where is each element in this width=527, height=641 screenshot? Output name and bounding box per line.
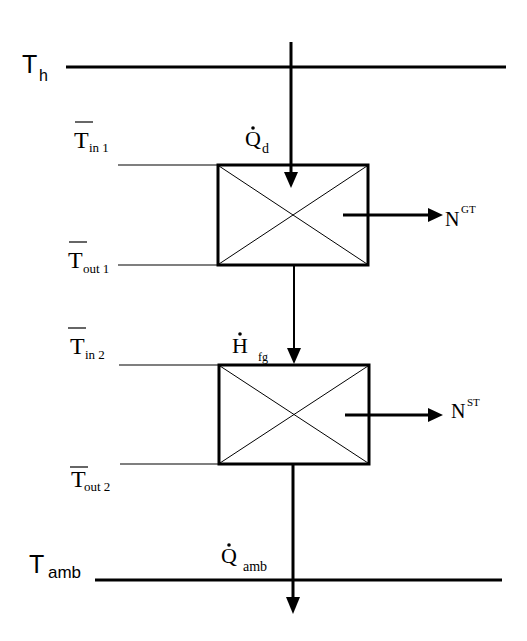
- arrow-down-icon: [287, 348, 301, 364]
- steam-turbine-box: [119, 365, 369, 464]
- arrow-down-icon: [286, 597, 300, 614]
- outlet-temp-2-label: T out 2: [70, 466, 110, 494]
- gas-turbine-work-label: N GT: [445, 203, 476, 230]
- steam-turbine-work-label: N ST: [451, 396, 480, 422]
- svg-text:N: N: [445, 208, 459, 230]
- svg-text:GT: GT: [461, 203, 476, 215]
- outlet-temp-1-label: T out 1: [68, 242, 109, 276]
- hot-temp-label: T: [22, 50, 37, 78]
- svg-text:d: d: [262, 141, 269, 156]
- hot-reservoir-level: T h: [22, 50, 506, 84]
- combined-cycle-diagram: T h Q d N GT T in 1 T out 1 H fg: [0, 0, 527, 641]
- heat-input-label: Q d: [245, 126, 269, 156]
- svg-text:T: T: [70, 333, 85, 359]
- svg-text:in 1: in 1: [89, 140, 109, 155]
- inlet-temp-1-label: T in 1: [74, 122, 109, 155]
- svg-text:H: H: [232, 333, 248, 358]
- gas-turbine-box: [118, 165, 368, 265]
- svg-text:T: T: [74, 127, 89, 153]
- svg-text:h: h: [39, 67, 48, 84]
- svg-text:fg: fg: [258, 350, 268, 364]
- svg-text:amb: amb: [48, 563, 81, 582]
- inlet-temp-2-label: T in 2: [68, 328, 105, 362]
- svg-text:ST: ST: [467, 396, 480, 408]
- svg-text:out 2: out 2: [84, 479, 110, 494]
- arrow-right-icon: [428, 408, 443, 422]
- arrow-right-icon: [428, 208, 443, 222]
- svg-text:N: N: [451, 400, 465, 422]
- flue-gas-label: H fg: [232, 332, 268, 364]
- svg-text:out 1: out 1: [83, 261, 109, 276]
- heat-rejection-label: Q amb: [221, 543, 267, 574]
- svg-text:T: T: [68, 247, 83, 273]
- svg-text:amb: amb: [243, 559, 267, 574]
- svg-text:in 2: in 2: [85, 347, 105, 362]
- arrow-down-icon: [284, 172, 298, 188]
- ambient-temp-label: T: [29, 550, 44, 578]
